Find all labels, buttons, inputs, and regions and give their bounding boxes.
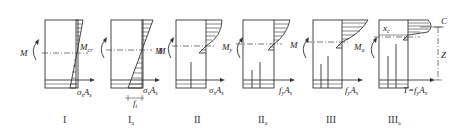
panel-stage-I: M Mcr σsAs I bbox=[19, 20, 95, 125]
beam-section bbox=[243, 20, 274, 88]
stage-label: II bbox=[194, 114, 201, 125]
arrow-icon bbox=[155, 78, 160, 82]
moment-arrow-icon bbox=[237, 40, 241, 58]
compression-force-label: C bbox=[441, 16, 448, 26]
stress-diagram bbox=[268, 20, 290, 50]
stage-label: IIa bbox=[258, 114, 268, 126]
stage-label: III bbox=[326, 114, 336, 125]
stress-diagram bbox=[336, 20, 368, 48]
moment-arrow-icon bbox=[101, 40, 105, 58]
ultimate-moment-label: Mu bbox=[353, 42, 365, 53]
panel-stage-II: M σsAs II bbox=[157, 20, 225, 125]
arrow-icon bbox=[90, 78, 95, 82]
steel-force-label: σsAs bbox=[143, 85, 158, 96]
arrow-icon bbox=[220, 78, 225, 82]
steel-force-label: fyAs bbox=[279, 85, 293, 96]
stage-label: I bbox=[63, 114, 66, 125]
moment-arrow-icon bbox=[303, 40, 307, 58]
stage-label: Ia bbox=[128, 114, 134, 126]
tensile-strength-label: ft bbox=[133, 98, 138, 109]
arrow-icon bbox=[290, 78, 295, 82]
moment-label: M bbox=[289, 40, 298, 50]
stage-label: IIIa bbox=[388, 114, 401, 126]
panel-stage-IIIa: xc C Z Mu T=fyAs IIIa bbox=[353, 16, 448, 126]
moment-label: M bbox=[19, 48, 28, 58]
yield-moment-label: My bbox=[221, 42, 233, 53]
stress-diagram bbox=[199, 20, 222, 53]
beam-stages-diagram: M Mcr σsAs I M σsAs ft Ia bbox=[0, 0, 466, 136]
cracking-moment-label: Mcr bbox=[79, 42, 93, 53]
arrow-icon bbox=[358, 78, 363, 82]
moment-label: M bbox=[157, 46, 166, 56]
panel-stage-Ia: M σsAs ft Ia bbox=[101, 20, 163, 126]
moment-arrow-icon bbox=[371, 40, 375, 58]
steel-force-label: σsAs bbox=[77, 87, 92, 98]
compression-depth-label: xc bbox=[382, 23, 390, 34]
steel-force-label: fyAs bbox=[345, 85, 359, 96]
steel-force-label: σsAs bbox=[209, 85, 224, 96]
panel-stage-IIa: My fyAs IIa bbox=[221, 20, 295, 126]
moment-arrow-icon bbox=[33, 42, 37, 60]
lever-arm-label: Z bbox=[441, 50, 447, 60]
steel-force-label: T=fyAs bbox=[403, 85, 428, 96]
beam-section bbox=[313, 20, 342, 88]
panel-stage-III: M fyAs III bbox=[289, 20, 368, 125]
moment-arrow-icon bbox=[168, 40, 172, 58]
